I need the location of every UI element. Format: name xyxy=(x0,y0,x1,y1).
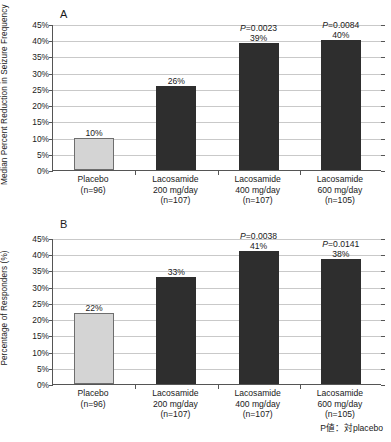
y-tick-mark-left xyxy=(49,336,53,337)
figure-lacosamide-results: Median Percent Reduction in Seizure Freq… xyxy=(0,0,391,442)
y-tick-mark-right xyxy=(381,336,385,337)
y-tick-mark-left xyxy=(49,74,53,75)
y-tick-mark-right xyxy=(381,106,385,107)
y-tick-mark-left xyxy=(49,385,53,386)
x-label-lacosamide-400: Lacosamide 400 mg/day (n=107) xyxy=(217,174,299,206)
y-tick-label: 45% xyxy=(32,20,49,30)
y-tick-mark-left xyxy=(49,90,53,91)
bar-2[interactable]: 39%P=0.0023 xyxy=(239,43,279,170)
x-label-line2: 200 mg/day xyxy=(134,399,216,410)
footnote-pvalue-note: P値：対placebo xyxy=(320,421,383,433)
x-label-line3: (n=105) xyxy=(299,409,381,420)
bar-0[interactable]: 10% xyxy=(74,138,114,170)
x-label-line1: Lacosamide xyxy=(299,388,381,399)
x-label-lacosamide-600: Lacosamide 600 mg/day (n=105) xyxy=(299,388,381,420)
y-tick-mark-right xyxy=(381,74,385,75)
x-label-line3: (n=105) xyxy=(299,195,381,206)
y-tick-label: 30% xyxy=(32,283,49,293)
y-tick-mark-right xyxy=(381,239,385,240)
bar-value-label: 10% xyxy=(86,128,103,138)
y-tick-mark-right xyxy=(381,369,385,370)
x-label-line1: Placebo xyxy=(52,174,134,185)
x-label-lacosamide-400: Lacosamide 400 mg/day (n=107) xyxy=(217,388,299,420)
bar-2[interactable]: 41%P=0.0038 xyxy=(239,251,279,384)
y-tick-mark-right xyxy=(381,255,385,256)
x-label-lacosamide-200: Lacosamide 200 mg/day (n=107) xyxy=(134,388,216,420)
y-tick-mark-left xyxy=(49,41,53,42)
x-label-line2: 600 mg/day xyxy=(299,399,381,410)
y-tick-mark-left xyxy=(49,304,53,305)
y-tick-mark-right xyxy=(381,122,385,123)
x-axis-labels-b: Placebo (n=96) Lacosamide 200 mg/day (n=… xyxy=(52,388,381,420)
x-label-line3: (n=107) xyxy=(134,195,216,206)
y-tick-mark-right xyxy=(381,271,385,272)
y-tick-mark-right xyxy=(381,288,385,289)
x-label-line2: (n=96) xyxy=(52,399,134,410)
bar-value-label: 22% xyxy=(86,303,103,313)
y-tick-mark-right xyxy=(381,171,385,172)
plot-area-b: 0%5%10%15%20%25%30%35%40%45%22%33%41%P=0… xyxy=(52,239,381,385)
y-tick-label: 45% xyxy=(32,234,49,244)
y-tick-mark-left xyxy=(49,320,53,321)
x-label-line2: 400 mg/day xyxy=(217,185,299,196)
x-label-line1: Placebo xyxy=(52,388,134,399)
y-tick-label: 15% xyxy=(32,117,49,127)
y-tick-label: 40% xyxy=(32,36,49,46)
y-tick-label: 30% xyxy=(32,69,49,79)
y-tick-mark-left xyxy=(49,271,53,272)
y-tick-mark-left xyxy=(49,353,53,354)
bar-pvalue-label: P=0.0141 xyxy=(322,239,359,249)
y-tick-label: 20% xyxy=(32,101,49,111)
y-tick-mark-right xyxy=(381,353,385,354)
y-tick-mark-right xyxy=(381,25,385,26)
y-tick-label: 10% xyxy=(32,348,49,358)
x-label-line1: Lacosamide xyxy=(217,174,299,185)
x-label-line3: (n=107) xyxy=(134,409,216,420)
bar-pvalue-label: P=0.0023 xyxy=(240,23,277,33)
y-tick-mark-right xyxy=(381,304,385,305)
y-tick-mark-left xyxy=(49,239,53,240)
y-tick-mark-right xyxy=(381,139,385,140)
bar-0[interactable]: 22% xyxy=(74,313,114,384)
y-tick-label: 5% xyxy=(37,364,49,374)
bar-3[interactable]: 38%P=0.0141 xyxy=(321,259,361,384)
bar-pvalue-label: P=0.0084 xyxy=(322,20,359,30)
bar-1[interactable]: 26% xyxy=(156,86,196,170)
y-tick-mark-left xyxy=(49,57,53,58)
x-label-line1: Lacosamide xyxy=(217,388,299,399)
x-label-line1: Lacosamide xyxy=(134,174,216,185)
y-tick-mark-right xyxy=(381,155,385,156)
bar-value-label: 39% xyxy=(250,33,267,43)
plot-area-a: 0%5%10%15%20%25%30%35%40%45%10%26%39%P=0… xyxy=(52,25,381,171)
y-tick-label: 0% xyxy=(37,166,49,176)
x-label-placebo: Placebo (n=96) xyxy=(52,174,134,206)
y-tick-label: 10% xyxy=(32,134,49,144)
y-tick-label: 40% xyxy=(32,250,49,260)
x-axis-labels-a: Placebo (n=96) Lacosamide 200 mg/day (n=… xyxy=(52,174,381,206)
y-tick-label: 25% xyxy=(32,85,49,95)
bar-value-label: 41% xyxy=(250,241,267,251)
y-tick-mark-right xyxy=(381,57,385,58)
bar-1[interactable]: 33% xyxy=(156,277,196,384)
y-tick-label: 35% xyxy=(32,266,49,276)
y-axis-title-a: Median Percent Reduction in Seizure Freq… xyxy=(0,15,9,185)
y-tick-mark-left xyxy=(49,255,53,256)
y-tick-mark-right xyxy=(381,90,385,91)
bar-value-label: 33% xyxy=(168,267,185,277)
y-axis-title-b: Percentage of Responders (%) xyxy=(0,223,9,393)
panel-a: Median Percent Reduction in Seizure Freq… xyxy=(0,0,391,218)
x-label-line2: 600 mg/day xyxy=(299,185,381,196)
y-tick-mark-right xyxy=(381,385,385,386)
y-tick-mark-right xyxy=(381,41,385,42)
y-tick-mark-left xyxy=(49,122,53,123)
y-tick-mark-left xyxy=(49,288,53,289)
bar-3[interactable]: 40%P=0.0084 xyxy=(321,40,361,170)
x-label-line1: Lacosamide xyxy=(134,388,216,399)
x-label-placebo: Placebo (n=96) xyxy=(52,388,134,420)
bar-value-label: 40% xyxy=(332,30,349,40)
x-label-line3: (n=107) xyxy=(217,409,299,420)
y-tick-mark-left xyxy=(49,155,53,156)
y-tick-mark-left xyxy=(49,25,53,26)
bar-value-label: 26% xyxy=(168,76,185,86)
y-tick-label: 20% xyxy=(32,315,49,325)
